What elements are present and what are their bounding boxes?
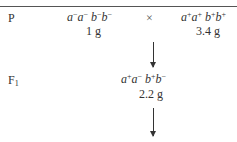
top-rule	[0, 6, 237, 7]
parent2-mass: 3.4 g	[196, 25, 220, 37]
parent1-genotype: a−a− b−b−	[67, 11, 112, 23]
allele-sign: +	[198, 10, 203, 19]
parent2-genotype: a+a+ b+b+	[181, 11, 226, 23]
allele-sign: +	[222, 10, 227, 19]
allele-sign: −	[108, 10, 113, 19]
p-label-text: P	[8, 11, 15, 25]
f1-mass: 2.2 g	[139, 88, 163, 100]
down-arrow-icon	[153, 108, 154, 136]
allele-sign: −	[162, 72, 167, 81]
allele-sign: −	[138, 72, 143, 81]
f1-label-subscript: 1	[15, 79, 19, 88]
allele-sign: −	[84, 10, 89, 19]
generation-label-f1: F1	[8, 74, 19, 86]
cross-symbol: ×	[146, 12, 153, 24]
f1-label-text: F	[8, 73, 15, 87]
generation-label-p: P	[8, 12, 15, 24]
down-arrow-icon	[153, 42, 154, 67]
f1-genotype: a+a− b+b−	[121, 73, 166, 85]
parent1-mass: 1 g	[86, 25, 101, 37]
